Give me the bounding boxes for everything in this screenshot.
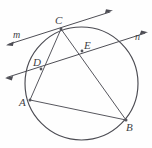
point-label-C: C [55, 15, 62, 26]
point-A-dot [29, 99, 32, 102]
line-m-arrowhead-left [6, 41, 14, 46]
point-label-A: A [19, 97, 26, 108]
line-n-shaft [7, 33, 145, 77]
point-D-dot [40, 68, 43, 71]
circle-outline [25, 27, 138, 140]
point-E-dot [81, 50, 84, 53]
point-label-E: E [84, 40, 91, 51]
point-label-B: B [126, 122, 133, 133]
point-label-D: D [33, 57, 41, 68]
segment-AB [30, 100, 126, 120]
geometry-figure: C D E A B m n [0, 0, 152, 148]
point-C-dot [60, 28, 63, 31]
line-label-n: n [135, 32, 140, 42]
line-label-m: m [13, 30, 20, 40]
